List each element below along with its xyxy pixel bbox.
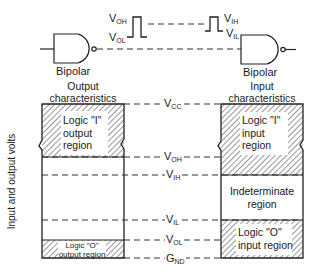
- vol-pulse-label: VOL: [108, 31, 127, 47]
- indeterminate-region: Indeterminate region: [221, 185, 303, 211]
- right-nand-gate-icon: [241, 35, 296, 64]
- gnd-label: GND: [165, 252, 186, 268]
- vol-label: VOL: [165, 233, 184, 249]
- input-heading: Input characteristics: [221, 80, 303, 104]
- vil-pulse-label: VIL: [225, 27, 240, 43]
- output-pulse-icon: [127, 17, 147, 37]
- logic0-input-region: Logic "O" input region: [238, 226, 293, 252]
- voh-pulse-label: VOH: [108, 12, 128, 28]
- logic0-output-region: Logic "O" output region: [56, 241, 108, 259]
- logic1-input-region: Logic "I" input region: [242, 114, 280, 152]
- vih-label: VIH: [165, 168, 181, 184]
- output-heading: Output characteristics: [42, 80, 124, 104]
- left-gate-label: Bipolar: [56, 65, 90, 77]
- y-axis-label: Input and output volts: [6, 127, 17, 237]
- vil-label: VIL: [165, 213, 180, 229]
- right-gate-label: Bipolar: [243, 66, 277, 78]
- vih-pulse-label: VIH: [223, 12, 239, 28]
- logic1-output-region: Logic "I" output region: [63, 114, 101, 152]
- input-pulse-icon: [205, 17, 223, 31]
- voh-label: VOH: [163, 150, 183, 166]
- left-nand-gate-icon: [40, 34, 96, 63]
- vcc-label: VCC: [163, 97, 182, 113]
